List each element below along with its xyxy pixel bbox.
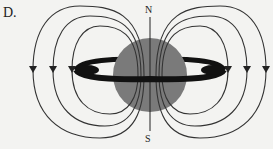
magnetic-field-diagram <box>0 0 273 149</box>
arrow-down-icon <box>49 66 57 73</box>
arrow-down-icon <box>262 66 270 73</box>
arrow-down-icon <box>243 66 251 73</box>
field-lines <box>33 6 266 138</box>
arrow-down-icon <box>29 66 37 73</box>
